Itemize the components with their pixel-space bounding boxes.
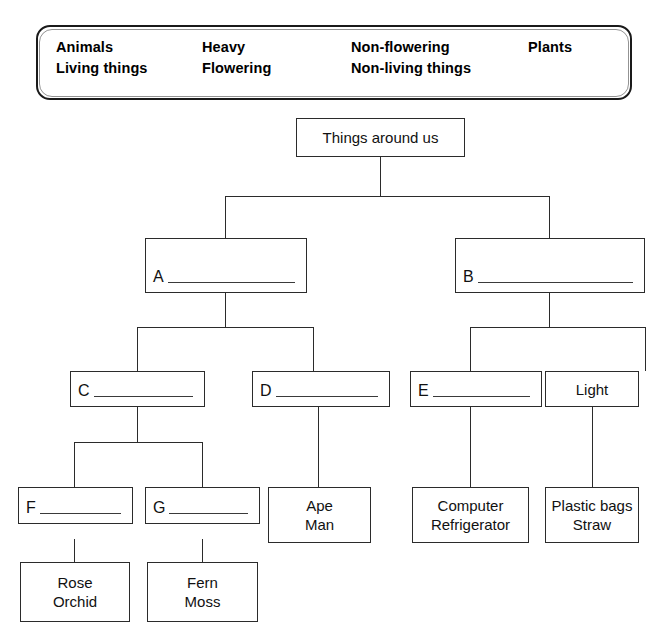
node-d-answer-blank[interactable] bbox=[276, 396, 378, 397]
node-fern-moss-line-2: Moss bbox=[185, 592, 221, 611]
word-bank-column-4: Plants bbox=[528, 37, 572, 58]
node-f[interactable]: F bbox=[18, 487, 133, 524]
node-light-label: Light bbox=[576, 380, 609, 399]
node-g-answer-blank[interactable] bbox=[169, 513, 248, 514]
node-g-letter: G bbox=[153, 500, 169, 516]
node-rose-orchid-line-1: Rose bbox=[57, 573, 92, 592]
node-computer-refrigerator: Computer Refrigerator bbox=[412, 487, 529, 543]
node-a[interactable]: A bbox=[145, 238, 307, 293]
node-ape-man: Ape Man bbox=[268, 487, 371, 543]
node-a-letter: A bbox=[153, 269, 168, 285]
node-light: Light bbox=[545, 371, 639, 407]
node-b[interactable]: B bbox=[455, 238, 645, 293]
node-rose-orchid: Rose Orchid bbox=[20, 562, 130, 622]
node-g[interactable]: G bbox=[145, 487, 260, 524]
connector-root-down bbox=[380, 157, 381, 197]
word-bank-term: Non-flowering bbox=[351, 37, 471, 58]
connector-a-down bbox=[225, 292, 226, 328]
connector-bar-to-a bbox=[225, 196, 226, 238]
connector-light-to-plastic bbox=[592, 406, 593, 487]
node-ape-man-line-2: Man bbox=[305, 515, 334, 534]
connector-e-to-computer bbox=[470, 406, 471, 487]
connector-bar-to-e bbox=[470, 327, 471, 371]
connector-bar-to-g bbox=[202, 442, 203, 487]
word-bank-column-1: Animals Living things bbox=[56, 37, 148, 79]
connector-g-to-fern bbox=[202, 539, 203, 563]
node-d[interactable]: D bbox=[252, 371, 390, 407]
node-e-answer-blank[interactable] bbox=[433, 396, 530, 397]
word-bank-term: Heavy bbox=[202, 37, 271, 58]
node-b-answer-blank[interactable] bbox=[478, 282, 633, 283]
node-e[interactable]: E bbox=[410, 371, 542, 407]
node-root-label: Things around us bbox=[323, 128, 439, 147]
node-c-letter: C bbox=[78, 383, 94, 399]
connector-d-to-ape-man bbox=[318, 406, 319, 487]
connector-c-bar bbox=[74, 442, 202, 443]
node-computer-refrigerator-line-1: Computer bbox=[438, 496, 504, 515]
node-a-answer-blank[interactable] bbox=[168, 282, 295, 283]
connector-bar-to-d bbox=[313, 327, 314, 371]
node-b-letter: B bbox=[463, 269, 478, 285]
node-rose-orchid-line-2: Orchid bbox=[53, 592, 97, 611]
worksheet-page: Animals Living things Heavy Flowering No… bbox=[0, 0, 654, 629]
node-c[interactable]: C bbox=[70, 371, 205, 407]
word-bank-term: Animals bbox=[56, 37, 148, 58]
node-plastic-straw: Plastic bags Straw bbox=[545, 487, 639, 543]
node-root: Things around us bbox=[296, 118, 465, 157]
connector-b-down bbox=[549, 292, 550, 328]
node-plastic-straw-line-2: Straw bbox=[573, 515, 611, 534]
node-fern-moss: Fern Moss bbox=[147, 562, 258, 622]
connector-bar-to-light bbox=[645, 327, 646, 371]
word-bank-column-2: Heavy Flowering bbox=[202, 37, 271, 79]
connector-root-bar bbox=[225, 196, 550, 197]
word-bank-column-3: Non-flowering Non-living things bbox=[351, 37, 471, 79]
word-bank-term: Non-living things bbox=[351, 58, 471, 79]
node-ape-man-line-1: Ape bbox=[306, 496, 333, 515]
connector-bar-to-c bbox=[137, 327, 138, 371]
connector-bar-to-f bbox=[74, 442, 75, 487]
node-f-letter: F bbox=[26, 500, 40, 516]
node-computer-refrigerator-line-2: Refrigerator bbox=[431, 515, 510, 534]
node-fern-moss-line-1: Fern bbox=[187, 573, 218, 592]
word-bank-term: Plants bbox=[528, 37, 572, 58]
word-bank-term: Living things bbox=[56, 58, 148, 79]
connector-b-bar bbox=[470, 327, 646, 328]
word-bank-term: Flowering bbox=[202, 58, 271, 79]
connector-bar-to-b bbox=[549, 196, 550, 238]
connector-a-bar bbox=[137, 327, 314, 328]
node-e-letter: E bbox=[418, 383, 433, 399]
connector-f-to-rose bbox=[74, 539, 75, 563]
node-plastic-straw-line-1: Plastic bags bbox=[552, 496, 633, 515]
node-d-letter: D bbox=[260, 383, 276, 399]
word-bank: Animals Living things Heavy Flowering No… bbox=[36, 25, 632, 100]
connector-c-down bbox=[137, 406, 138, 443]
node-f-answer-blank[interactable] bbox=[40, 513, 121, 514]
node-c-answer-blank[interactable] bbox=[94, 396, 193, 397]
